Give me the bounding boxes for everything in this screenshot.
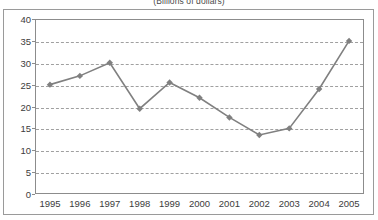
y-axis-tick-mark xyxy=(32,194,35,195)
x-axis-tick-label: 2000 xyxy=(189,198,210,209)
y-axis-tick-label: 25 xyxy=(20,79,31,90)
data-point-marker xyxy=(256,132,262,138)
y-axis-tick-label: 5 xyxy=(26,167,31,178)
y-axis-tick-label: 10 xyxy=(20,145,31,156)
x-axis-tick-label: 2004 xyxy=(309,198,330,209)
x-axis-tick-label: 1997 xyxy=(99,198,120,209)
y-axis-tick-label: 15 xyxy=(20,123,31,134)
y-axis-tick-label: 30 xyxy=(20,57,31,68)
y-axis-tick-label: 0 xyxy=(26,189,31,200)
x-axis-tick-label: 1996 xyxy=(69,198,90,209)
series-line xyxy=(50,41,349,135)
data-series-line xyxy=(35,19,364,194)
x-axis: 1995199619971998199920002001200220032004… xyxy=(35,198,364,212)
x-axis-tick-label: 2003 xyxy=(279,198,300,209)
x-axis-tick-label: 2002 xyxy=(249,198,270,209)
x-axis-tick-label: 1995 xyxy=(39,198,60,209)
x-axis-tick-label: 1998 xyxy=(129,198,150,209)
data-point-marker xyxy=(77,73,83,79)
data-point-marker xyxy=(47,81,53,87)
x-axis-tick-label: 1999 xyxy=(159,198,180,209)
y-axis-tick-label: 40 xyxy=(20,14,31,25)
chart-subtitle: (Billions of dollars) xyxy=(0,0,378,6)
chart-figure: (Billions of dollars) 0510152025303540 1… xyxy=(0,0,378,220)
y-axis-tick-label: 35 xyxy=(20,35,31,46)
x-axis-tick-label: 2005 xyxy=(338,198,359,209)
y-axis-tick-label: 20 xyxy=(20,101,31,112)
x-axis-tick-label: 2001 xyxy=(219,198,240,209)
